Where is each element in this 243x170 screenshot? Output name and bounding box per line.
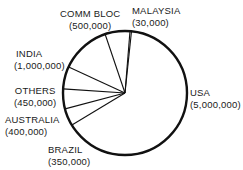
label-malaysia-name: MALAYSIA: [132, 5, 180, 17]
label-usa-value: (5,000,000): [190, 99, 241, 111]
slice-divider-australia: [65, 93, 125, 109]
label-comm-bloc-value: (500,000): [60, 20, 120, 32]
label-others-value: (450,000): [14, 97, 56, 109]
slice-divider-malaysia: [125, 31, 130, 93]
label-india-name: INDIA: [14, 48, 65, 60]
label-comm-bloc-name: COMM BLOC: [60, 8, 120, 20]
label-others: OTHERS (450,000): [14, 85, 56, 109]
label-brazil-name: BRAZIL: [48, 144, 90, 156]
slice-divider-india: [69, 67, 125, 93]
label-australia-name: AUSTRALIA: [5, 114, 60, 126]
label-others-name: OTHERS: [14, 85, 56, 97]
label-usa: USA (5,000,000): [190, 87, 241, 111]
label-comm-bloc: COMM BLOC (500,000): [60, 8, 120, 32]
label-brazil-value: (350,000): [48, 156, 90, 168]
label-usa-name: USA: [190, 87, 241, 99]
label-australia: AUSTRALIA (400,000): [5, 114, 60, 138]
slice-divider-others: [63, 89, 125, 93]
slice-divider-comm-bloc: [105, 34, 125, 93]
label-malaysia: MALAYSIA (30,000): [132, 5, 180, 29]
label-malaysia-value: (30,000): [132, 17, 180, 29]
label-india: INDIA (1,000,000): [14, 48, 65, 72]
label-australia-value: (400,000): [5, 126, 60, 138]
slice-divider-brazil: [72, 93, 125, 125]
pie-slices: [63, 31, 131, 125]
label-brazil: BRAZIL (350,000): [48, 144, 90, 168]
label-india-value: (1,000,000): [14, 60, 65, 72]
